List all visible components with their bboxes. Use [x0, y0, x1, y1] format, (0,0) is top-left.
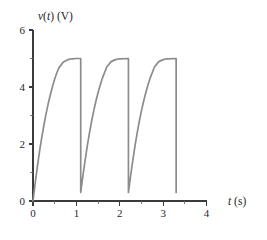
y-tick-label: 2	[20, 138, 26, 150]
y-tick-label: 6	[20, 24, 26, 36]
voltage-waveform-chart: 0246 01234 v(t) (V) t (s)	[0, 0, 267, 240]
y-tick-label: 0	[20, 195, 26, 207]
x-tick-label: 0	[30, 207, 36, 219]
x-tick-label: 3	[160, 207, 166, 219]
x-axis-label-unit: (s)	[231, 195, 246, 208]
x-tick-label: 4	[204, 207, 210, 219]
x-axis-label: t (s)	[228, 195, 246, 208]
chart-figure: 0246 01234 v(t) (V) t (s)	[0, 0, 267, 240]
y-tick-label: 4	[20, 81, 26, 93]
x-tick-label: 1	[74, 207, 80, 219]
y-axis-label-unit: (V)	[54, 10, 73, 23]
chart-background	[0, 0, 267, 240]
y-axis-label: v(t) (V)	[38, 10, 73, 23]
x-tick-label: 2	[117, 207, 123, 219]
